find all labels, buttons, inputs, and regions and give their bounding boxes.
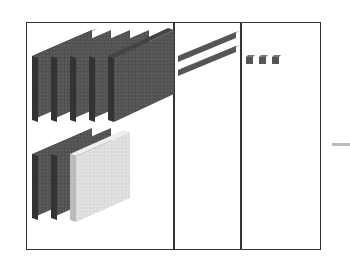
hundreds-flats-top: [32, 28, 174, 122]
blocks-illustration: [0, 0, 350, 272]
ones-units: [246, 55, 281, 64]
tens-rods: [178, 31, 240, 76]
hundreds-flats-bottom: [32, 128, 130, 222]
dash-mark: [332, 143, 350, 146]
